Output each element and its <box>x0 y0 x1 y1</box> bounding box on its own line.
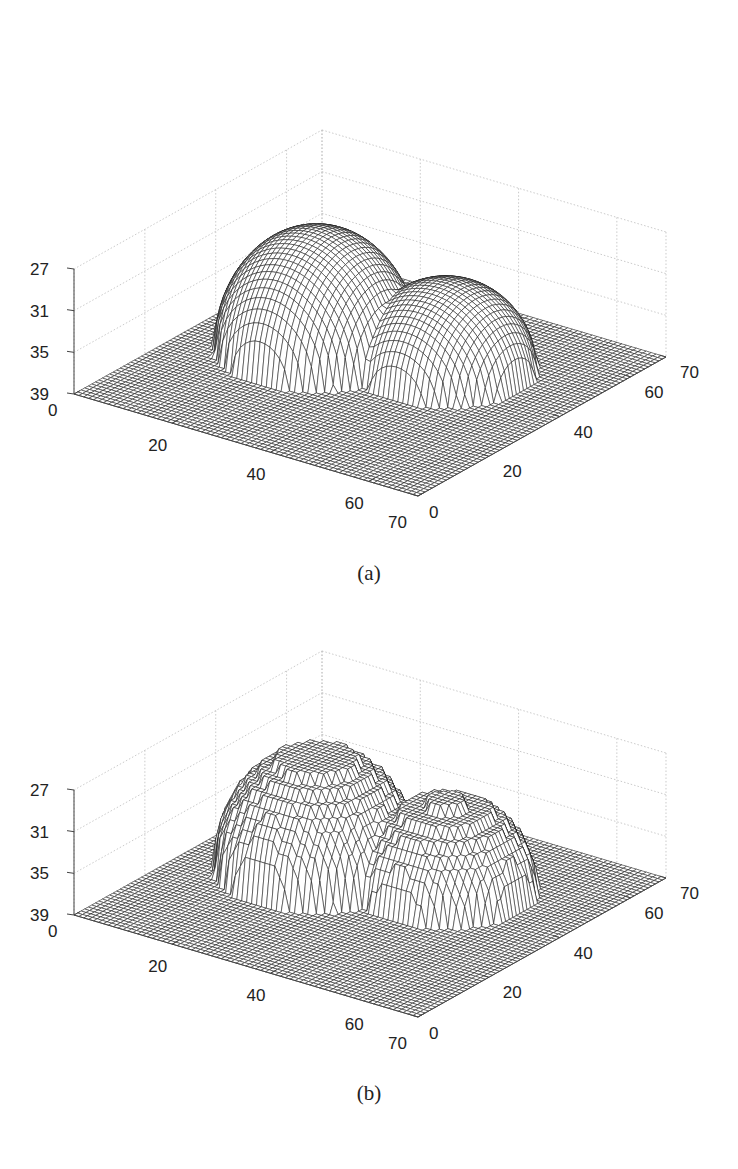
panel-caption-b: (b) <box>0 1081 738 1106</box>
y-tick-label: 70 <box>680 363 699 382</box>
mesh-surface <box>74 224 666 496</box>
x-tick-label: 40 <box>247 465 266 484</box>
z-tick-label: 31 <box>30 823 49 842</box>
x-tick-label: 0 <box>48 401 57 420</box>
z-tick-label: 35 <box>30 864 49 883</box>
z-tick-label: 31 <box>30 302 49 321</box>
y-tick-label: 70 <box>680 884 699 903</box>
x-tick-label: 70 <box>388 1034 407 1053</box>
surface-plot-b: 02040607002040607027313539 <box>0 521 738 1081</box>
x-tick-label: 40 <box>247 986 266 1005</box>
y-tick-label: 60 <box>645 904 664 923</box>
x-tick-label: 20 <box>148 436 167 455</box>
y-tick-label: 20 <box>503 983 522 1002</box>
x-tick-label: 60 <box>345 494 364 513</box>
figure-panel-b: 02040607002040607027313539 (b) <box>0 521 738 1121</box>
surface-plot-a: 02040607002040607027313539 <box>0 0 738 560</box>
z-tick-label: 39 <box>30 906 49 925</box>
y-tick-label: 0 <box>429 503 438 522</box>
y-tick-label: 60 <box>645 383 664 402</box>
x-tick-label: 20 <box>148 957 167 976</box>
z-tick-label: 39 <box>30 385 49 404</box>
z-tick-label: 27 <box>30 781 49 800</box>
x-tick-label: 60 <box>345 1015 364 1034</box>
y-tick-label: 0 <box>429 1024 438 1043</box>
z-tick-label: 27 <box>30 260 49 279</box>
axes-group: 02040607002040607027313539 <box>30 130 699 532</box>
figure-panel-a: 02040607002040607027313539 (a) <box>0 0 738 590</box>
x-tick-label: 0 <box>48 922 57 941</box>
axes-group: 02040607002040607027313539 <box>30 651 699 1053</box>
z-tick-label: 35 <box>30 343 49 362</box>
y-tick-label: 40 <box>574 944 593 963</box>
y-tick-label: 20 <box>503 462 522 481</box>
y-tick-label: 40 <box>574 423 593 442</box>
